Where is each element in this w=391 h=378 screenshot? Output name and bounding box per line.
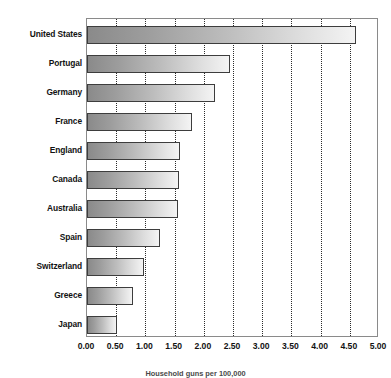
y-axis-label: Japan: [0, 319, 82, 329]
y-axis-label: Portugal: [0, 58, 82, 68]
gridline-2.50: [233, 19, 235, 336]
chart-caption-clipped: Household guns per 100,000: [0, 370, 391, 378]
y-axis-label: Switzerland: [0, 261, 82, 271]
x-axis-tick: 3.50: [282, 341, 299, 351]
gridline-4.50: [350, 19, 352, 336]
bar: [87, 26, 356, 44]
gridline-3.00: [262, 19, 264, 336]
x-axis-tick: 4.00: [311, 341, 328, 351]
bar: [87, 142, 180, 160]
bar: [87, 55, 230, 73]
y-axis-label: Germany: [0, 87, 82, 97]
x-axis-tick: 2.50: [224, 341, 241, 351]
x-axis-tick: 3.00: [253, 341, 270, 351]
y-axis-category-labels: United StatesPortugalGermanyFranceEnglan…: [0, 18, 82, 337]
y-axis-label: Australia: [0, 203, 82, 213]
x-axis-tick: 4.50: [340, 341, 357, 351]
y-axis-label: Spain: [0, 232, 82, 242]
x-axis-tick: 2.00: [194, 341, 211, 351]
bar: [87, 229, 160, 247]
y-axis-label: United States: [0, 29, 82, 39]
gridline-3.50: [291, 19, 293, 336]
bar: [87, 316, 117, 334]
x-axis-tick: 1.50: [165, 341, 182, 351]
x-axis-tick: 1.00: [136, 341, 153, 351]
bar: [87, 200, 178, 218]
chart-caption: Household guns per 100,000: [0, 370, 391, 378]
bar: [87, 258, 144, 276]
bar: [87, 171, 179, 189]
y-axis-label: Canada: [0, 174, 82, 184]
bar: [87, 287, 133, 305]
bar: [87, 84, 215, 102]
y-axis-label: England: [0, 145, 82, 155]
x-axis-tick: 5.00: [370, 341, 387, 351]
x-axis-tick: 0.50: [107, 341, 124, 351]
x-axis-tick: 0.00: [78, 341, 95, 351]
y-axis-label: France: [0, 116, 82, 126]
x-axis-tick-labels: 0.000.501.001.502.002.503.003.504.004.50…: [86, 341, 378, 355]
bar: [87, 113, 192, 131]
y-axis-label: Greece: [0, 290, 82, 300]
plot-area: [86, 18, 378, 337]
gridline-4.00: [321, 19, 323, 336]
bar-chart: United StatesPortugalGermanyFranceEnglan…: [0, 0, 391, 378]
